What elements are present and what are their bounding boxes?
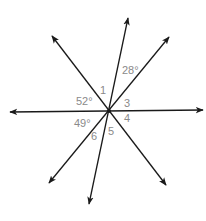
intersecting-lines-figure: 28°152°3449°56: [0, 0, 206, 221]
lines-group: [10, 18, 203, 204]
line-horizontal: [10, 110, 203, 112]
label-angle-5: 5: [108, 125, 114, 137]
diagram-canvas: 28°152°3449°56: [0, 0, 206, 221]
label-angle-6: 6: [91, 130, 97, 142]
label-angle-4: 4: [124, 112, 130, 124]
intersection-point: [107, 109, 111, 113]
label-angle-1: 1: [100, 84, 106, 96]
label-angle-28: 28°: [122, 64, 139, 76]
label-angle-3: 3: [124, 97, 130, 109]
label-angle-52: 52°: [76, 95, 93, 107]
labels-group: 28°152°3449°56: [74, 64, 139, 142]
label-angle-49: 49°: [74, 117, 91, 129]
